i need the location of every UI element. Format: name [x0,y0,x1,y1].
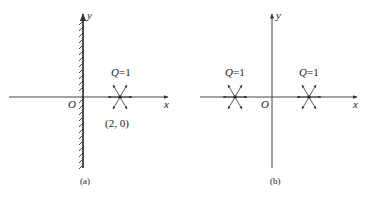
figure-canvas: y x O Q=1 (2, 0) (a) y x O [0,0,365,197]
caption-b: (b) [270,176,281,186]
x-axis-label: x [163,98,169,110]
source-point-icon [108,85,132,109]
source-point-icon [297,85,321,109]
origin-label: O [68,98,76,110]
y-axis-label: y [275,9,281,21]
panel-b: y x O Q=1 Q=1 (b) [200,9,358,186]
origin-label: O [261,98,269,110]
caption-a: (a) [80,176,90,186]
source-strength-label: Q=1 [111,66,131,78]
x-axis-label: x [352,98,358,110]
source-coordinate-label: (2, 0) [105,117,129,130]
source-strength-label-left: Q=1 [225,66,245,78]
source-point-icon [223,85,247,109]
source-strength-label-right: Q=1 [299,66,319,78]
panel-a: y x O Q=1 (2, 0) (a) [9,9,169,186]
y-axis-label: y [86,9,92,21]
